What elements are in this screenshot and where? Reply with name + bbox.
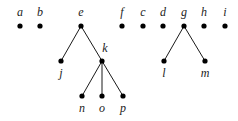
label-m: m (201, 66, 210, 80)
edge-k-p (102, 61, 123, 96)
node-f (119, 23, 124, 28)
edge-k-n (82, 61, 102, 96)
node-h (201, 23, 206, 28)
node-p (120, 93, 125, 98)
label-k: k (102, 41, 108, 55)
node-c (140, 23, 145, 28)
nodes-group (17, 23, 227, 98)
node-o (99, 93, 104, 98)
label-p: p (119, 101, 126, 115)
edge-g-l (164, 26, 184, 61)
label-o: o (99, 101, 105, 115)
label-e: e (78, 5, 84, 19)
label-g: g (181, 5, 187, 19)
label-d: d (160, 5, 167, 19)
label-h: h (201, 5, 207, 19)
label-a: a (17, 5, 23, 19)
edge-e-k (81, 26, 102, 61)
edge-g-m (184, 26, 205, 61)
node-n (79, 93, 84, 98)
label-l: l (162, 66, 166, 80)
node-d (160, 23, 165, 28)
edge-e-j (61, 26, 81, 61)
label-i: i (223, 5, 226, 19)
node-a (17, 23, 22, 28)
node-b (37, 23, 42, 28)
labels-group: abefcdghijklmnop (17, 5, 227, 115)
forest-diagram: abefcdghijklmnop (0, 0, 238, 121)
node-i (222, 23, 227, 28)
label-b: b (37, 5, 43, 19)
node-e (78, 23, 83, 28)
node-g (181, 23, 186, 28)
node-m (202, 58, 207, 63)
label-c: c (140, 5, 146, 19)
edges-group (61, 26, 205, 96)
node-k (99, 58, 104, 63)
label-j: j (57, 66, 63, 80)
node-j (58, 58, 63, 63)
label-f: f (120, 5, 125, 19)
label-n: n (79, 101, 85, 115)
node-l (161, 58, 166, 63)
